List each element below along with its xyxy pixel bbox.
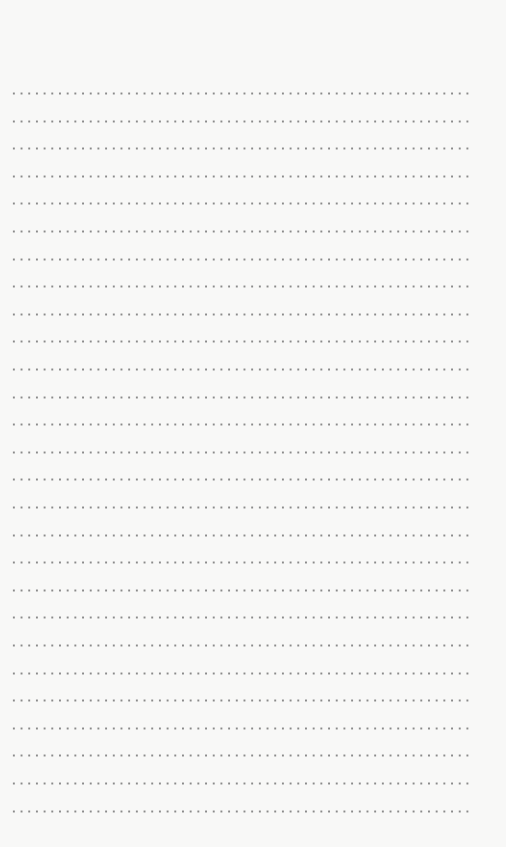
- dotted-writing-line: [10, 754, 471, 757]
- dotted-writing-line: [10, 561, 471, 564]
- dotted-paper-page: [0, 0, 506, 847]
- dotted-writing-line: [10, 644, 471, 647]
- dotted-writing-line: [10, 478, 471, 481]
- dotted-writing-line: [10, 810, 471, 813]
- dotted-writing-line: [10, 285, 471, 288]
- dotted-writing-line: [10, 699, 471, 702]
- dotted-writing-line: [10, 175, 471, 178]
- dotted-writing-line: [10, 616, 471, 619]
- dotted-writing-line: [10, 92, 471, 95]
- dotted-writing-line: [10, 120, 471, 123]
- dotted-writing-line: [10, 727, 471, 730]
- dotted-writing-line: [10, 451, 471, 454]
- dotted-writing-line: [10, 202, 471, 205]
- dotted-writing-line: [10, 534, 471, 537]
- dotted-writing-line: [10, 258, 471, 261]
- dotted-writing-line: [10, 313, 471, 316]
- dotted-writing-line: [10, 782, 471, 785]
- dotted-writing-line: [10, 589, 471, 592]
- dotted-writing-line: [10, 147, 471, 150]
- dotted-writing-line: [10, 368, 471, 371]
- dotted-writing-line: [10, 672, 471, 675]
- dotted-writing-line: [10, 396, 471, 399]
- dotted-writing-line: [10, 230, 471, 233]
- dotted-writing-line: [10, 506, 471, 509]
- dotted-writing-line: [10, 423, 471, 426]
- dotted-writing-line: [10, 340, 471, 343]
